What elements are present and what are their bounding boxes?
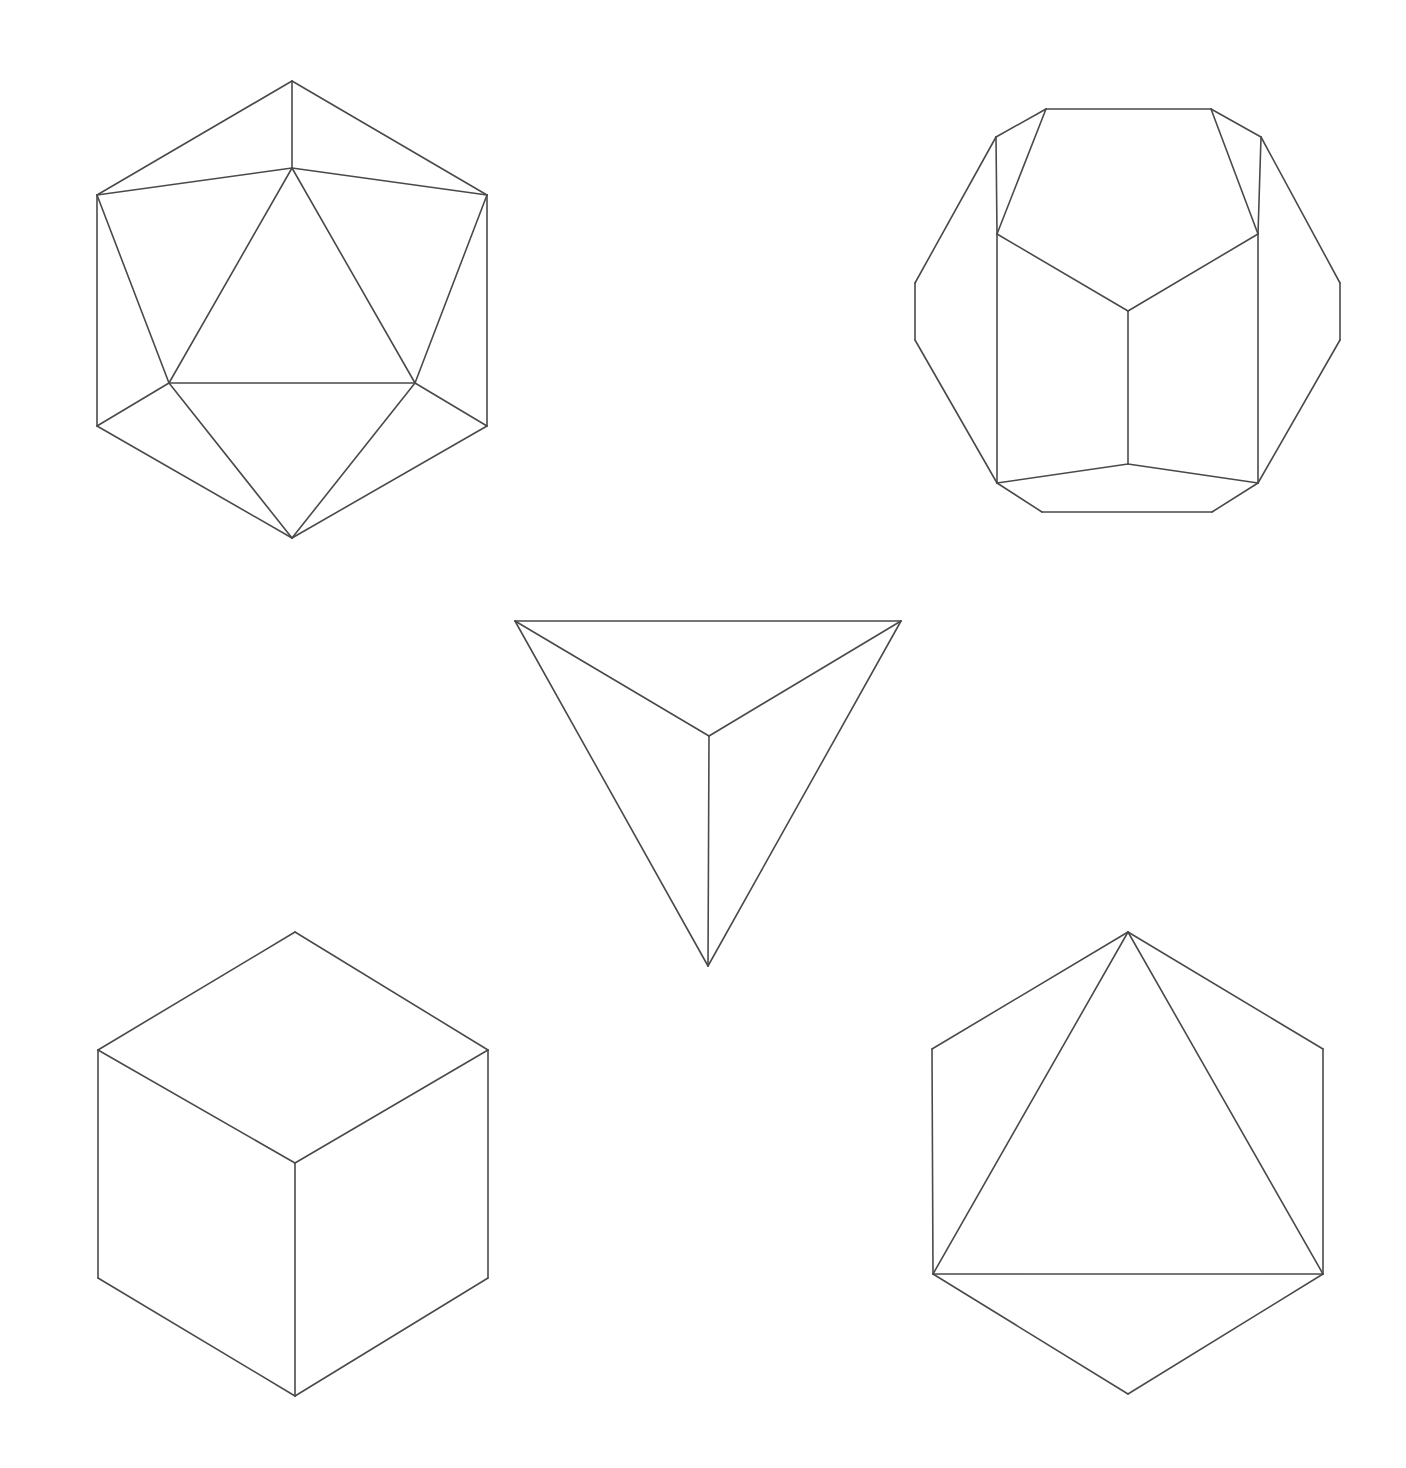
dodecahedron-edge bbox=[1258, 340, 1340, 483]
tetrahedron-edge bbox=[515, 621, 708, 966]
cube-figure bbox=[98, 932, 488, 1396]
icosahedron-edge bbox=[97, 383, 169, 426]
dodecahedron-edge bbox=[1128, 464, 1258, 483]
dodecahedron-edge bbox=[1128, 234, 1258, 311]
octahedron-edge bbox=[1128, 932, 1323, 1274]
cube-edge bbox=[295, 1050, 488, 1163]
tetrahedron-edge bbox=[709, 621, 901, 736]
dodecahedron-edge bbox=[1261, 137, 1340, 283]
dodecahedron-edge bbox=[1211, 109, 1261, 137]
dodecahedron-edge bbox=[996, 109, 1046, 137]
octahedron-edge bbox=[932, 1049, 933, 1274]
tetrahedron-edge bbox=[708, 736, 709, 966]
dodecahedron-edge bbox=[997, 483, 1042, 512]
icosahedron-edge bbox=[415, 195, 487, 383]
octahedron-edge bbox=[1128, 1274, 1323, 1394]
octahedron-figure bbox=[932, 932, 1323, 1394]
icosahedron-edge bbox=[97, 81, 292, 195]
icosahedron-edge bbox=[292, 81, 487, 195]
icosahedron-edge bbox=[292, 168, 487, 195]
cube-edge bbox=[98, 1050, 295, 1163]
icosahedron-edge bbox=[97, 168, 292, 195]
drawing-canvas bbox=[0, 0, 1406, 1468]
dodecahedron-edge bbox=[996, 137, 997, 234]
tetrahedron-figure bbox=[515, 621, 901, 966]
cube-edge bbox=[295, 1278, 488, 1396]
tetrahedron-edge bbox=[708, 621, 901, 966]
octahedron-edge bbox=[932, 932, 1128, 1049]
dodecahedron-edge bbox=[915, 137, 996, 283]
dodecahedron-edge bbox=[915, 340, 997, 483]
tetrahedron-edge bbox=[515, 621, 709, 736]
dodecahedron-figure bbox=[915, 109, 1340, 512]
icosahedron-edge bbox=[97, 426, 292, 538]
octahedron-edge bbox=[933, 1274, 1128, 1394]
platonic-solids-illustration bbox=[0, 0, 1406, 1468]
icosahedron-edge bbox=[292, 168, 415, 383]
dodecahedron-edge bbox=[1258, 137, 1261, 234]
dodecahedron-edge bbox=[1212, 483, 1258, 512]
dodecahedron-edge bbox=[997, 109, 1046, 234]
cube-edge bbox=[98, 932, 295, 1050]
icosahedron-figure bbox=[97, 81, 487, 538]
icosahedron-edge bbox=[169, 383, 292, 538]
dodecahedron-edge bbox=[997, 234, 1128, 311]
icosahedron-edge bbox=[169, 168, 292, 383]
icosahedron-edge bbox=[292, 426, 487, 538]
icosahedron-edge bbox=[292, 383, 415, 538]
cube-edge bbox=[295, 932, 488, 1050]
icosahedron-edge bbox=[415, 383, 487, 426]
octahedron-edge bbox=[1128, 932, 1323, 1049]
icosahedron-edge bbox=[97, 195, 169, 383]
dodecahedron-edge bbox=[997, 464, 1128, 483]
octahedron-edge bbox=[933, 932, 1128, 1274]
dodecahedron-edge bbox=[1211, 109, 1258, 234]
cube-edge bbox=[98, 1278, 295, 1396]
